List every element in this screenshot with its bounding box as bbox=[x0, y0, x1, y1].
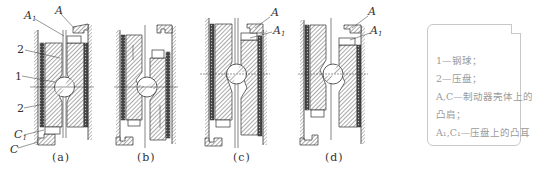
label-A1: A1 bbox=[272, 24, 285, 38]
label-A1: A1 bbox=[369, 24, 382, 38]
legend-item-plate-lug: A₁,C₁—压盘上的凸耳 bbox=[436, 125, 530, 139]
legend-item-housing-shoulder: A,C—制动器壳体上的 bbox=[436, 89, 533, 103]
label-A: A bbox=[54, 4, 63, 17]
legend-item-pressure-plate: 2—压盘； bbox=[436, 71, 482, 85]
caption-a: (a) bbox=[52, 151, 70, 164]
panel-d: A A1 bbox=[298, 5, 382, 145]
brake-mechanism-figure: A1 A 2 1 2 C1 C bbox=[0, 0, 410, 181]
label-A1: A1 bbox=[23, 9, 36, 23]
caption-d: (d) bbox=[325, 151, 344, 164]
panel-c: A A1 bbox=[200, 6, 285, 148]
legend-item-housing-shoulder-cont: 凸肩； bbox=[436, 107, 466, 121]
legend-box: 1—钢球； 2—压盘； A,C—制动器壳体上的 凸肩； A₁,C₁—压盘上的凸耳 bbox=[427, 24, 521, 146]
label-1: 1 bbox=[15, 70, 22, 83]
label-2-bottom: 2 bbox=[17, 102, 24, 115]
label-A: A bbox=[270, 6, 279, 19]
label-A: A bbox=[367, 5, 376, 18]
panel-b bbox=[114, 25, 178, 148]
folded-corner-icon bbox=[511, 24, 521, 34]
panel-a: A1 A 2 1 2 C1 C bbox=[10, 4, 94, 156]
legend-item-ball: 1—钢球； bbox=[436, 53, 482, 67]
label-C1: C1 bbox=[14, 128, 27, 142]
label-2-top: 2 bbox=[17, 43, 24, 56]
caption-c: (c) bbox=[233, 151, 251, 164]
label-C: C bbox=[10, 143, 19, 156]
caption-b: (b) bbox=[137, 151, 156, 164]
